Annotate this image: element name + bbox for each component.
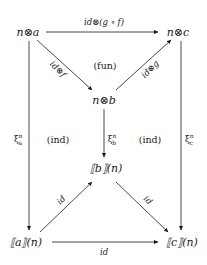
cell-fun: (fun) [93,60,116,71]
arrow-sema-semb [40,182,92,232]
arrow-na-nb [37,40,92,90]
label-xi-a: ξna [14,132,22,146]
node-n-tensor-a: n⊗a [17,26,40,39]
diagram-arrows [0,0,207,265]
cell-ind-right: (ind) [139,134,162,145]
node-sem-a: ⟦a⟧(n) [10,236,42,249]
arrow-semb-semc [116,182,168,232]
node-n-tensor-c: n⊗c [167,26,189,39]
node-sem-b: ⟦b⟧(n) [90,162,123,175]
label-xi-b: ξnb [108,132,116,146]
arrow-nb-nc [116,40,171,90]
label-id-bottom: id [100,247,108,257]
label-xi-c: ξnc [185,132,193,146]
cell-ind-left: (ind) [47,134,70,145]
label-top-arrow: id⊗(g ∘ f) [84,17,124,27]
node-n-tensor-b: n⊗b [92,94,115,107]
node-sem-c: ⟦c⟧(n) [166,236,198,249]
